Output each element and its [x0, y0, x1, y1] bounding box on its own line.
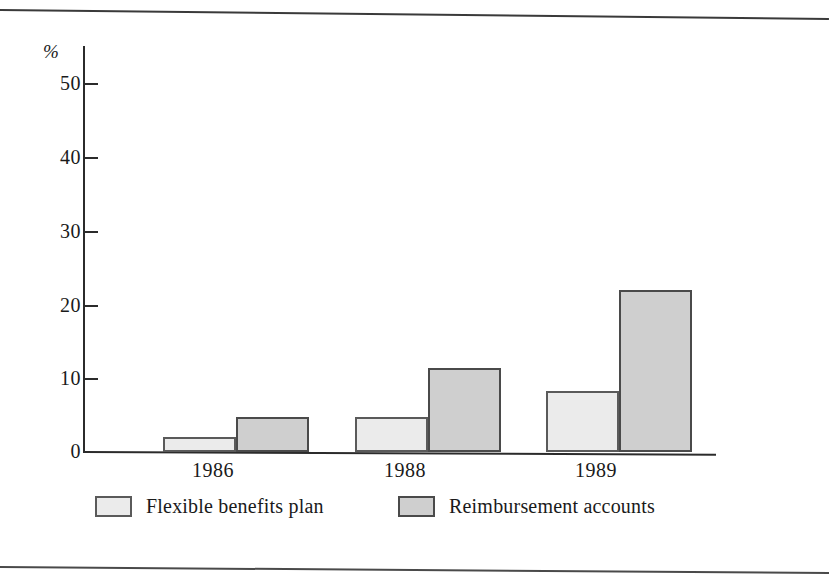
- bar-1986-reimbursement-accounts: [236, 417, 309, 452]
- bar-1989-reimbursement-accounts: [619, 290, 692, 452]
- legend-item-reimbursement-accounts: Reimbursement accounts: [398, 495, 655, 517]
- bar-chart: % 50 40 30 20 10 0 1986 1988 1989 Flexib…: [0, 0, 829, 581]
- legend-item-flexible-benefits-plan: Flexible benefits plan: [95, 495, 324, 517]
- legend-label-flexible-benefits-plan: Flexible benefits plan: [146, 495, 324, 517]
- legend-label-reimbursement-accounts: Reimbursement accounts: [449, 495, 655, 517]
- bar-1988-flexible-benefits-plan: [355, 417, 428, 452]
- bar-1989-flexible-benefits-plan: [546, 391, 619, 452]
- x-axis-label-1986: 1986: [133, 459, 293, 481]
- bars-layer: [0, 0, 829, 581]
- legend-swatch-icon-flexible-benefits-plan: [95, 496, 132, 517]
- x-axis-label-1989: 1989: [516, 459, 676, 481]
- bar-1988-reimbursement-accounts: [428, 368, 501, 452]
- legend-swatch-icon-reimbursement-accounts: [398, 496, 435, 517]
- chart-legend: Flexible benefits plan Reimbursement acc…: [95, 495, 735, 529]
- bar-1986-flexible-benefits-plan: [163, 437, 236, 452]
- x-axis-label-1988: 1988: [325, 459, 485, 481]
